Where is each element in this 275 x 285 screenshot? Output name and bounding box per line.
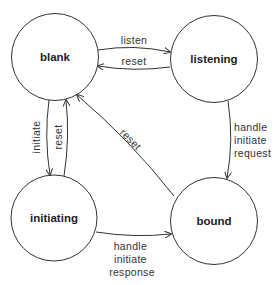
transition-blank-to-listening: listen — [98, 34, 170, 52]
label-reset-top: reset — [122, 55, 147, 67]
arrow-handle-initiate-response — [96, 232, 171, 236]
label-reset-left: reset — [52, 125, 64, 150]
state-diagram: blank listening initiating bound listen … — [0, 0, 275, 285]
arrow-handle-initiate-request — [227, 101, 231, 178]
state-bound-label: bound — [196, 215, 231, 227]
label-initiate: initiate — [30, 121, 42, 154]
state-blank-label: blank — [40, 51, 71, 63]
transition-initiating-to-blank: reset — [52, 100, 68, 176]
label-listen: listen — [121, 34, 147, 46]
state-bound: bound — [171, 178, 258, 265]
state-blank: blank — [12, 14, 99, 101]
state-initiating: initiating — [11, 175, 97, 261]
state-listening: listening — [171, 16, 258, 103]
transition-listening-to-blank: reset — [98, 55, 170, 69]
transition-blank-to-initiating: initiate — [30, 100, 50, 175]
arrow-initiate — [47, 100, 50, 175]
transition-bound-to-blank: reset — [77, 95, 174, 196]
arrow-reset-left — [64, 100, 68, 176]
state-listening-label: listening — [190, 53, 237, 65]
label-handle-initiate-request: handle initiate request — [234, 121, 271, 159]
arrow-listen — [98, 47, 170, 52]
label-reset-diagonal: reset — [118, 126, 144, 152]
state-initiating-label: initiating — [30, 212, 78, 224]
transition-initiating-to-bound: handle initiate response — [96, 232, 171, 278]
label-handle-initiate-response: handle initiate response — [109, 240, 155, 278]
transition-listening-to-bound: handle initiate request — [227, 101, 271, 178]
arrow-reset-diagonal — [77, 95, 174, 196]
